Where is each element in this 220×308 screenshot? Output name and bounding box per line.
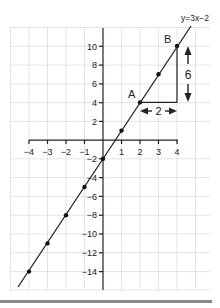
point	[101, 157, 105, 161]
x-tick-label: 2	[137, 147, 142, 157]
point	[119, 128, 123, 132]
y-tick-label: 10	[87, 42, 97, 52]
point	[82, 185, 86, 189]
x-tick-label: −4	[24, 147, 34, 157]
y-tick-label: −14	[82, 267, 97, 277]
equation-label: y=3x−2	[181, 13, 209, 23]
x-tick-label: 1	[119, 147, 124, 157]
point-a-label: A	[128, 88, 136, 100]
y-tick-label: −8	[87, 210, 97, 220]
x-tick-label: 4	[174, 147, 179, 157]
point	[45, 241, 49, 245]
x-tick-label: −3	[42, 147, 52, 157]
point	[156, 72, 160, 76]
y-tick-label: −12	[82, 248, 97, 258]
y-tick-label: −2	[87, 154, 97, 164]
y-tick-label: 8	[92, 60, 97, 70]
rise-label: 6	[185, 68, 192, 82]
x-tick-label: 3	[156, 147, 161, 157]
point	[27, 269, 31, 273]
run-arrow: 2	[140, 105, 177, 117]
x-tick-labels: −4 −3 −2 −1 1 2 3 4	[24, 147, 180, 157]
y-tick-label: 2	[92, 117, 97, 127]
y-tick-label: 4	[92, 98, 97, 108]
y-tick-label: −10	[82, 229, 97, 239]
run-label: 2	[155, 105, 161, 117]
bottom-divider	[0, 300, 212, 303]
rise-arrow: 6	[185, 46, 192, 102]
x-tick-label: −2	[61, 147, 71, 157]
grid	[10, 28, 210, 291]
y-tick-label: −6	[87, 192, 97, 202]
point-b-label: B	[164, 33, 171, 45]
y-tick-label: 6	[92, 79, 97, 89]
point	[64, 213, 68, 217]
linear-graph: −4 −3 −2 −1 1 2 3 4 10 8 6 4 2 −2 −4 −6 …	[0, 0, 220, 308]
